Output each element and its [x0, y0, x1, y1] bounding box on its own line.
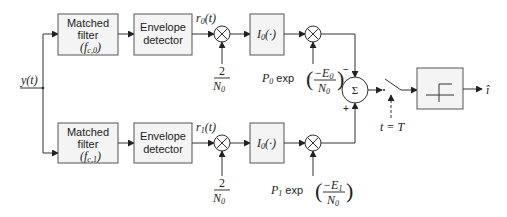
sum-sign-minus: −	[343, 64, 349, 75]
svg-text:N0: N0	[326, 193, 339, 208]
scale-factor-0: 2 N0	[212, 64, 230, 94]
bessel-block-1: I0(·)	[250, 123, 284, 163]
svg-text:Matched: Matched	[67, 17, 109, 29]
svg-text:N0: N0	[212, 79, 225, 94]
multiplier-prior-0	[305, 26, 321, 42]
svg-text:I0(·): I0(·)	[256, 136, 276, 151]
svg-text:P0exp: P0exp	[261, 71, 294, 86]
input-signal: y(t)	[20, 34, 58, 153]
summer: Σ	[342, 77, 368, 103]
sigma-icon: Σ	[352, 84, 358, 96]
svg-text:N0: N0	[212, 191, 225, 206]
svg-text:I0(·): I0(·)	[256, 27, 276, 42]
envelope-output-label-1: r1(t)	[196, 120, 216, 135]
svg-text:P1exp: P1exp	[270, 183, 303, 198]
branch-1: Matched filter (fc,1) Envelope detector …	[58, 103, 355, 208]
sample-time-label: t = T	[380, 120, 405, 134]
input-label: y(t)	[20, 73, 38, 87]
envelope-detector-1: Envelope detector	[134, 123, 192, 163]
svg-text:−E0: −E0	[314, 66, 333, 81]
decision-device	[417, 68, 463, 109]
svg-text:detector: detector	[143, 34, 183, 46]
scale-factor-1: 2 N0	[212, 176, 230, 206]
output-label: î	[486, 83, 490, 97]
sampler-switch: t = T	[380, 79, 417, 134]
svg-text:2: 2	[219, 176, 225, 190]
prior-weight-1: P1exp ( −E1 N0 )	[270, 178, 353, 208]
branch-0: Matched filter (fc,0) Envelope detector …	[58, 11, 355, 96]
svg-text:detector: detector	[143, 143, 183, 155]
envelope-detector-0: Envelope detector	[134, 14, 192, 55]
svg-text:Envelope: Envelope	[140, 21, 186, 33]
multiplier-scale-1	[214, 135, 230, 151]
sum-sign-plus: +	[343, 103, 349, 114]
svg-text:Envelope: Envelope	[140, 130, 186, 142]
svg-text:N0: N0	[317, 81, 330, 96]
svg-text:Matched: Matched	[67, 126, 109, 138]
svg-text:(: (	[306, 66, 313, 91]
multiplier-prior-1	[305, 135, 321, 151]
envelope-output-label-0: r0(t)	[196, 11, 216, 26]
multiplier-scale-0	[214, 26, 230, 42]
matched-filter-1: Matched filter (fc,1)	[58, 123, 118, 164]
block-diagram: y(t) Matched filter (fc,0) Envelope dete…	[0, 0, 507, 217]
svg-text:2: 2	[219, 64, 225, 78]
svg-text:−E1: −E1	[323, 178, 342, 193]
prior-weight-0: P0exp ( −E0 N0 )	[261, 66, 344, 96]
matched-filter-0: Matched filter (fc,0)	[58, 14, 118, 55]
bessel-block-0: I0(·)	[250, 14, 284, 55]
svg-text:): )	[346, 178, 353, 203]
svg-text:(: (	[315, 178, 322, 203]
